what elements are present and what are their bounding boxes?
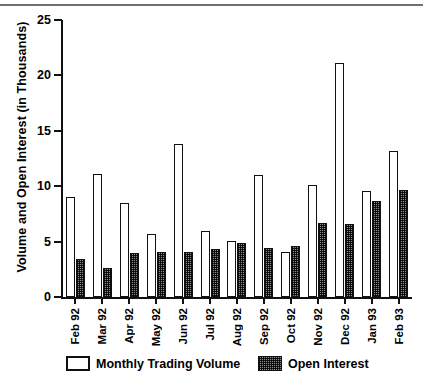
bar-group xyxy=(62,20,89,297)
bar-group xyxy=(89,20,116,297)
y-tick xyxy=(54,130,62,132)
y-tick-label: 15 xyxy=(37,124,51,138)
bar-group xyxy=(250,20,277,297)
x-tick xyxy=(263,297,265,304)
x-tick-label: Jun 92 xyxy=(177,308,189,344)
bar-group xyxy=(116,20,143,297)
bar-open-interest xyxy=(211,249,220,297)
bar-monthly-trading-volume xyxy=(66,197,75,297)
x-tick xyxy=(398,297,400,304)
bar-group xyxy=(170,20,197,297)
x-tick-label: May 92 xyxy=(150,308,162,346)
x-tick-label: Feb 92 xyxy=(69,308,81,344)
bar-group xyxy=(358,20,385,297)
bar-open-interest xyxy=(318,223,327,297)
legend-label-open-interest: Open Interest xyxy=(288,357,369,371)
bar-open-interest xyxy=(130,253,139,297)
x-tick-label: Nov 92 xyxy=(312,308,324,346)
x-tick-label: Oct 92 xyxy=(285,308,297,343)
bar-monthly-trading-volume xyxy=(174,144,183,297)
bar-open-interest xyxy=(157,252,166,297)
x-tick xyxy=(182,297,184,304)
legend-label-volume: Monthly Trading Volume xyxy=(96,357,240,371)
bar-monthly-trading-volume xyxy=(281,252,290,297)
bar-open-interest xyxy=(345,224,354,297)
y-tick-label: 20 xyxy=(37,68,51,82)
bar-groups xyxy=(62,20,412,297)
page-top-rule xyxy=(0,4,423,6)
bar-group xyxy=(143,20,170,297)
bar-open-interest xyxy=(399,190,408,297)
bar-group xyxy=(385,20,412,297)
y-tick-label: 10 xyxy=(37,179,51,193)
x-tick-label: Dec 92 xyxy=(339,308,351,345)
legend-swatch-open-interest-icon xyxy=(258,356,282,371)
x-tick xyxy=(290,297,292,304)
legend-swatch-volume-icon xyxy=(66,356,90,371)
legend-item-open-interest: Open Interest xyxy=(258,356,369,371)
bar-monthly-trading-volume xyxy=(147,234,156,297)
bar-monthly-trading-volume xyxy=(201,231,210,297)
bar-monthly-trading-volume xyxy=(254,175,263,297)
bar-open-interest xyxy=(291,246,300,297)
x-tick xyxy=(371,297,373,304)
bar-open-interest xyxy=(184,252,193,297)
bar-group xyxy=(197,20,224,297)
bar-monthly-trading-volume xyxy=(362,191,371,297)
bar-group xyxy=(304,20,331,297)
bar-open-interest xyxy=(237,243,246,297)
x-tick xyxy=(74,297,76,304)
bar-open-interest xyxy=(76,259,85,297)
x-tick xyxy=(155,297,157,304)
bar-open-interest xyxy=(372,201,381,297)
y-tick xyxy=(54,74,62,76)
x-tick xyxy=(128,297,130,304)
y-tick-label: 0 xyxy=(44,290,51,304)
x-tick xyxy=(209,297,211,304)
x-tick-label: Jul 92 xyxy=(204,308,216,341)
y-tick xyxy=(54,19,62,21)
bar-monthly-trading-volume xyxy=(308,185,317,297)
x-tick-label: Aug 92 xyxy=(231,308,243,346)
y-tick xyxy=(54,241,62,243)
x-tick xyxy=(101,297,103,304)
bar-monthly-trading-volume xyxy=(120,203,129,297)
bar-monthly-trading-volume xyxy=(389,151,398,297)
bar-monthly-trading-volume xyxy=(335,63,344,297)
x-tick xyxy=(317,297,319,304)
x-tick-label: Jan 93 xyxy=(366,308,378,344)
bar-monthly-trading-volume xyxy=(93,174,102,297)
bar-group xyxy=(224,20,251,297)
x-tick-label: Apr 92 xyxy=(123,308,135,344)
x-tick-label: Sep 92 xyxy=(258,308,270,345)
x-tick xyxy=(344,297,346,304)
y-tick-label: 25 xyxy=(37,13,51,27)
y-tick xyxy=(54,296,62,298)
y-tick-label: 5 xyxy=(44,235,51,249)
chart-legend: Monthly Trading Volume Open Interest xyxy=(62,356,412,382)
bar-group xyxy=(277,20,304,297)
bar-open-interest xyxy=(103,268,112,297)
legend-item-monthly-trading-volume: Monthly Trading Volume xyxy=(66,356,240,371)
x-tick-label: Mar 92 xyxy=(96,308,108,344)
bar-group xyxy=(331,20,358,297)
bar-monthly-trading-volume xyxy=(227,241,236,298)
chart-figure: Volume and Open Interest (in Thousands) … xyxy=(0,0,423,390)
x-tick-label: Feb 93 xyxy=(393,308,405,344)
plot-area: 0510152025 Feb 92Mar 92Apr 92May 92Jun 9… xyxy=(62,20,412,297)
y-axis-title: Volume and Open Interest (in Thousands) xyxy=(15,7,29,287)
y-tick xyxy=(54,185,62,187)
x-tick xyxy=(236,297,238,304)
bar-open-interest xyxy=(264,248,273,297)
